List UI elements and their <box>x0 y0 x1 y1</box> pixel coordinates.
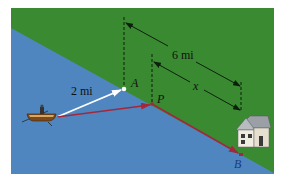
point-p-marker <box>150 102 154 106</box>
point-b-marker <box>239 153 243 156</box>
label-distance-2mi: 2 mi <box>71 85 93 97</box>
label-point-a: A <box>131 77 138 89</box>
label-distance-x: x <box>193 80 198 92</box>
diagram-canvas <box>0 0 287 184</box>
label-point-p: P <box>157 93 164 105</box>
label-point-b: B <box>234 158 241 170</box>
label-distance-6mi: 6 mi <box>172 49 194 61</box>
point-a-marker <box>122 87 127 92</box>
